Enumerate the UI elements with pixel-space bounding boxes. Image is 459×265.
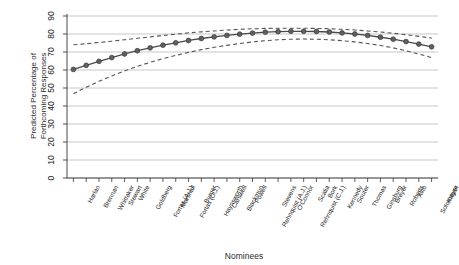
y-tick-label: 70 bbox=[45, 42, 57, 62]
y-tick-label: 0 bbox=[45, 168, 57, 188]
y-tick-label: 80 bbox=[45, 24, 57, 44]
y-tick-label: 60 bbox=[45, 60, 57, 80]
y-tick-label: 50 bbox=[45, 78, 57, 98]
y-tick-label: 90 bbox=[45, 6, 57, 26]
x-axis-title: Nominees bbox=[0, 251, 448, 261]
y-tick-label: 10 bbox=[45, 150, 57, 170]
y-tick-label: 30 bbox=[45, 114, 57, 134]
y-tick-label: 20 bbox=[45, 132, 57, 152]
y-tick-label: 40 bbox=[45, 96, 57, 116]
